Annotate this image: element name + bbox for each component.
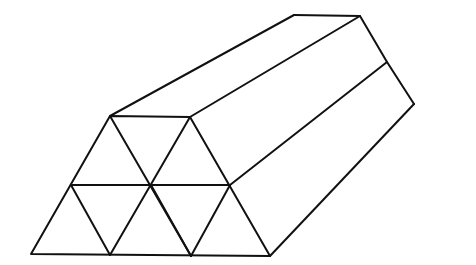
edge-top-right bbox=[190, 16, 360, 117]
back-edge bbox=[294, 15, 414, 104]
triangular-prism-stack-diagram bbox=[0, 0, 476, 265]
front-face bbox=[31, 116, 270, 256]
edge-mid-right bbox=[230, 62, 387, 185]
back-outline bbox=[294, 15, 414, 104]
receding-edges bbox=[110, 15, 414, 256]
diagonal-3 bbox=[71, 185, 110, 255]
edge-bottom-right bbox=[270, 104, 414, 256]
edge-top-left bbox=[110, 15, 294, 116]
diagonal-5 bbox=[191, 185, 230, 256]
diagonal-4 bbox=[151, 185, 191, 256]
